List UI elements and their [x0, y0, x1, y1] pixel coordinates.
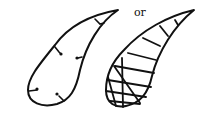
or-label: or	[134, 6, 147, 19]
pin-mark	[29, 87, 39, 91]
pin-mark	[75, 56, 82, 59]
pin-mark	[55, 47, 63, 56]
right-teardrop	[106, 10, 194, 107]
left-teardrop-outline	[28, 10, 118, 105]
diagram-canvas: or	[0, 0, 208, 117]
pin-mark	[95, 19, 104, 24]
pin-mark	[55, 92, 64, 101]
left-teardrop	[28, 10, 118, 105]
